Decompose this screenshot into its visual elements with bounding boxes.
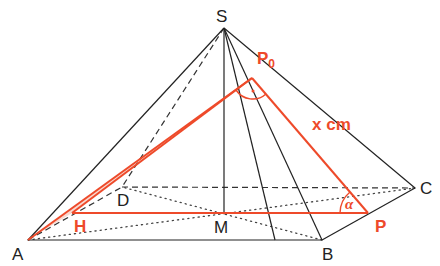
label-D: D xyxy=(117,191,129,210)
label-P0-base: P xyxy=(257,49,268,68)
label-P0: P0 xyxy=(257,49,275,71)
edge-SC xyxy=(224,28,415,188)
label-H: H xyxy=(74,217,86,236)
label-A: A xyxy=(12,245,24,264)
right-angle-dot xyxy=(252,90,255,93)
label-C: C xyxy=(420,179,432,198)
label-B: B xyxy=(322,245,333,264)
label-S: S xyxy=(216,7,227,26)
red-line-P0-P xyxy=(252,78,368,213)
label-M: M xyxy=(214,218,228,237)
label-alpha: α xyxy=(345,196,354,212)
pyramid-diagram: S A B C D M H P P0 x cm α xyxy=(0,0,440,266)
red-line-H-P0 xyxy=(72,78,252,213)
edge-DC-hidden xyxy=(122,187,415,188)
label-P: P xyxy=(375,217,386,236)
label-P0-subscript: 0 xyxy=(268,57,275,71)
label-length-x: x cm xyxy=(312,115,351,134)
